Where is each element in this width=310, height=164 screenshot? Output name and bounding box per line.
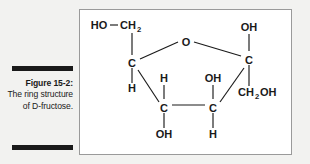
label-ch2-subscript: 2	[137, 25, 141, 34]
bond-c2-o	[140, 42, 178, 59]
label-ch2oh-subscript: 2	[255, 92, 259, 101]
figure-number: Figure 15-2:	[2, 78, 73, 89]
label-h-on-c2: H	[128, 82, 136, 94]
label-h-on-c3: H	[160, 72, 168, 84]
figure-description: The ring structure of D-fructose.	[2, 89, 73, 112]
label-ch2oh-group: CH 2 OH	[238, 86, 277, 101]
figure-caption: Figure 15-2: The ring structure of D-fru…	[2, 78, 73, 112]
label-hydroxyl-terminal: HO	[91, 19, 108, 31]
bond-o-c5	[194, 42, 241, 56]
caption-rule-bottom	[12, 145, 73, 150]
label-oh-on-c3: OH	[156, 128, 173, 140]
atom-ring-c5: C	[245, 54, 253, 66]
label-ch2oh-oh: OH	[260, 86, 277, 98]
label-oh-on-c5: OH	[241, 21, 258, 33]
figure-panel: Figure 15-2: The ring structure of D-fru…	[0, 0, 310, 164]
atom-ring-c4: C	[209, 102, 217, 114]
atom-ring-c3: C	[160, 102, 168, 114]
bond-c3-c2	[138, 70, 159, 102]
figure-image-frame: O C C C C HO CH 2 H OH CH 2 OH H OH OH H	[79, 9, 292, 155]
atom-ring-oxygen: O	[182, 36, 191, 48]
label-ch2-group: CH 2	[120, 19, 141, 34]
label-oh-on-c4: OH	[205, 72, 222, 84]
fructose-ring-diagram: O C C C C HO CH 2 H OH CH 2 OH H OH OH H	[80, 10, 291, 154]
caption-rule-top	[12, 66, 73, 71]
atom-ring-c2: C	[128, 57, 136, 69]
label-ch2oh-ch: CH	[238, 86, 254, 98]
label-h-on-c4: H	[209, 128, 217, 140]
caption-column: Figure 15-2: The ring structure of D-fru…	[0, 0, 79, 164]
label-ch2-text: CH	[120, 19, 136, 31]
